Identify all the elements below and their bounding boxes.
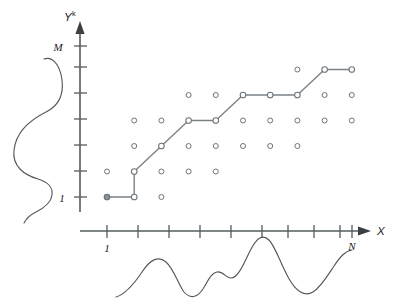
warping-path-layer bbox=[104, 67, 354, 200]
lattice-point bbox=[186, 144, 191, 149]
grid-dots-layer bbox=[105, 67, 355, 200]
y-marginal-density bbox=[14, 58, 63, 223]
figure-svg: Y k X M 1 1 N bbox=[0, 0, 393, 301]
lattice-point bbox=[241, 118, 246, 123]
warping-path-line bbox=[107, 70, 352, 198]
warping-path-node bbox=[131, 169, 137, 175]
lattice-point bbox=[132, 118, 137, 123]
warping-path-node bbox=[349, 67, 355, 73]
lattice-point bbox=[186, 93, 191, 98]
lattice-point bbox=[159, 169, 164, 174]
y-axis-label-superscript: k bbox=[72, 9, 76, 18]
axes-group bbox=[74, 21, 371, 238]
lattice-point bbox=[349, 93, 354, 98]
x-marginal-density bbox=[116, 237, 352, 297]
x-marginal-density-curve bbox=[116, 237, 352, 297]
x-axis-label: X bbox=[376, 225, 386, 237]
lattice-point bbox=[159, 118, 164, 123]
x-axis-arrow-icon bbox=[358, 226, 371, 235]
y-axis-min-label: 1 bbox=[59, 192, 65, 204]
warping-path-node bbox=[240, 92, 246, 98]
lattice-point bbox=[322, 118, 327, 123]
lattice-point bbox=[322, 93, 327, 98]
warping-path-node bbox=[295, 92, 301, 98]
warping-path-node bbox=[104, 194, 110, 200]
warping-path-nodes bbox=[104, 67, 354, 200]
lattice-point bbox=[213, 93, 218, 98]
axis-labels-group: Y k X M 1 1 N bbox=[52, 9, 386, 254]
warping-path-node bbox=[186, 118, 192, 124]
lattice-point bbox=[295, 67, 300, 72]
lattice-point bbox=[213, 169, 218, 174]
lattice-point bbox=[186, 169, 191, 174]
lattice-point bbox=[159, 195, 164, 200]
y-marginal-density-curve bbox=[14, 58, 63, 223]
lattice-point bbox=[213, 144, 218, 149]
lattice-point bbox=[349, 118, 354, 123]
y-axis-arrow-icon bbox=[75, 21, 84, 34]
lattice-point bbox=[105, 169, 110, 174]
warping-path-node bbox=[131, 194, 137, 200]
warping-path-node bbox=[322, 67, 328, 73]
warping-path-node bbox=[267, 92, 273, 98]
warping-path-node bbox=[213, 118, 219, 124]
lattice-point bbox=[295, 144, 300, 149]
lattice-point bbox=[241, 144, 246, 149]
x-axis-min-label: 1 bbox=[104, 242, 110, 254]
lattice-point bbox=[268, 144, 273, 149]
lattice-point bbox=[268, 118, 273, 123]
figure-container: Y k X M 1 1 N bbox=[0, 0, 393, 301]
warping-path-node bbox=[159, 143, 165, 149]
y-axis-max-label: M bbox=[52, 41, 63, 53]
lattice-point bbox=[132, 144, 137, 149]
lattice-point bbox=[295, 118, 300, 123]
